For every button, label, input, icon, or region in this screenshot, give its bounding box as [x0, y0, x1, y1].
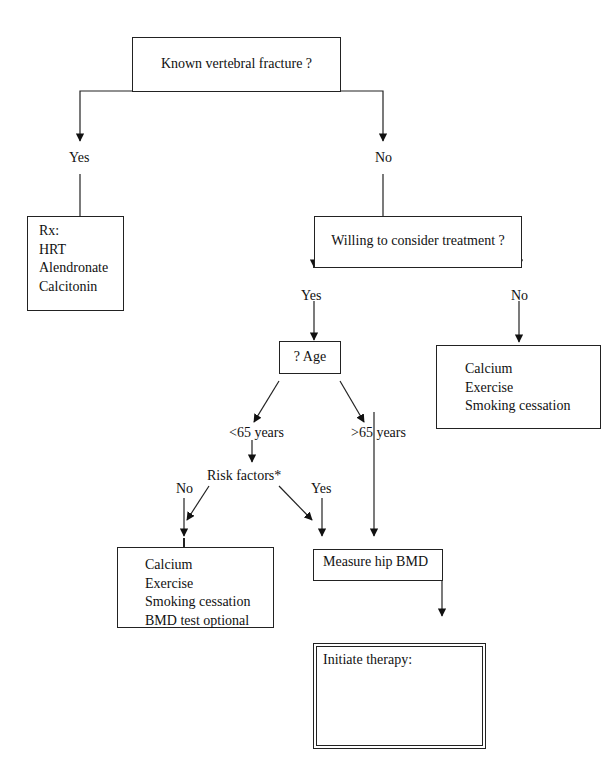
rx-line: Rx: — [39, 222, 123, 241]
consider-treatment-question-label: Willing to consider treatment ? — [315, 232, 521, 251]
rx-line: Calcitonin — [39, 278, 123, 297]
lifestyle-line: Exercise — [465, 379, 600, 398]
therapy-title: Initiate therapy: — [323, 651, 482, 668]
treatment-no-label: No — [511, 287, 528, 304]
risk-factors-label: Risk factors* — [207, 467, 281, 484]
risk-no-label: No — [176, 480, 193, 497]
age-under-65-label: <65 years — [229, 424, 284, 441]
lifestyle-line: Calcium — [145, 556, 273, 575]
vertebral-fracture-question-box: Known vertebral fracture ? — [132, 37, 341, 92]
measure-hip-bmd-label: Measure hip BMD — [323, 553, 442, 572]
initiate-therapy-box: Initiate therapy: — [313, 643, 486, 749]
rx-line: HRT — [39, 241, 123, 260]
lifestyle-line: Smoking cessation — [465, 397, 600, 416]
lifestyle-line: Calcium — [465, 360, 600, 379]
fracture-yes-label: Yes — [69, 149, 89, 166]
risk-yes-label: Yes — [311, 480, 331, 497]
rx-line: Alendronate — [39, 259, 123, 278]
age-question-label: ? Age — [280, 348, 340, 367]
age-over-65-label: >65 years — [351, 424, 406, 441]
fracture-no-label: No — [375, 149, 392, 166]
treatment-yes-label: Yes — [301, 287, 321, 304]
lifestyle-line: Smoking cessation — [145, 593, 273, 612]
lifestyle-measures-box: Calcium Exercise Smoking cessation — [436, 345, 601, 429]
measure-hip-bmd-box: Measure hip BMD — [313, 549, 443, 581]
consider-treatment-question-box: Willing to consider treatment ? — [314, 216, 522, 268]
lifestyle-line: Exercise — [145, 575, 273, 594]
age-question-box: ? Age — [279, 341, 341, 374]
lifestyle-measures-box-2: Calcium Exercise Smoking cessation BMD t… — [117, 547, 274, 628]
rx-treatment-box: Rx: HRT Alendronate Calcitonin — [27, 216, 124, 311]
lifestyle-line: BMD test optional — [145, 612, 273, 631]
vertebral-fracture-question-label: Known vertebral fracture ? — [133, 55, 340, 74]
